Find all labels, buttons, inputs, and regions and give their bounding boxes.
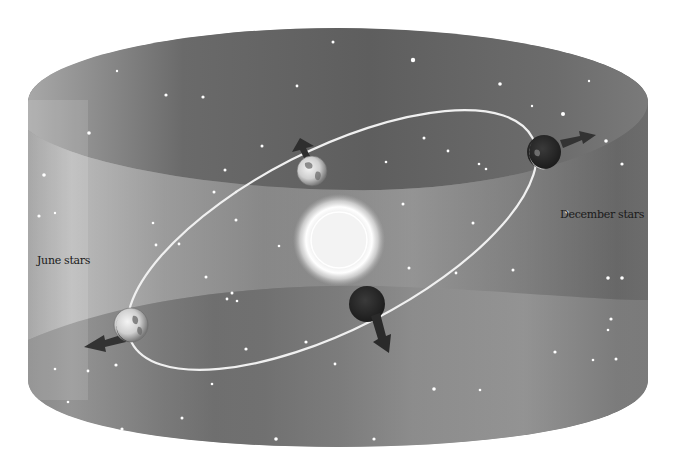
celestial-cylinder-diagram: June stars December stars xyxy=(0,0,675,465)
june-stars-label: June stars xyxy=(37,254,90,267)
sun xyxy=(293,194,385,286)
december-stars-label: December stars xyxy=(560,208,644,221)
diagram-canvas xyxy=(0,0,675,465)
